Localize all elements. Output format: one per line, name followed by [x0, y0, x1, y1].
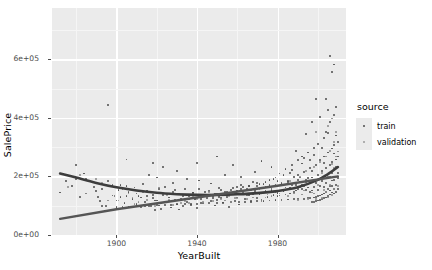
y-tick-mark [48, 176, 51, 177]
x-tick-label: 1940 [177, 239, 217, 248]
y-tick-label: 4e+05 [3, 114, 39, 122]
x-tick-mark [116, 235, 117, 238]
legend-label: validation [377, 138, 416, 147]
y-tick-mark [48, 235, 51, 236]
x-tick-mark [197, 235, 198, 238]
x-tick-label: 1900 [96, 239, 136, 248]
plot-panel [52, 8, 346, 235]
y-tick-label: 6e+05 [3, 55, 39, 63]
trend-line-train [60, 167, 338, 195]
legend: source trainvalidation [356, 101, 430, 150]
legend-entries: trainvalidation [356, 118, 430, 150]
legend-key-point-marker-icon [356, 118, 372, 134]
legend-title: source [357, 101, 430, 112]
y-tick-mark [48, 59, 51, 60]
legend-entry-train[interactable]: train [356, 118, 430, 134]
y-tick-mark [48, 118, 51, 119]
point-marker-icon [363, 125, 365, 127]
y-axis-ticks: 0e+002e+054e+056e+05 [0, 0, 48, 270]
legend-key-point-marker-icon [356, 134, 372, 150]
point-marker-icon [363, 141, 365, 143]
trend-lines-layer [52, 8, 346, 235]
legend-entry-validation[interactable]: validation [356, 134, 430, 150]
scatter-plot-figure: SalePrice 0e+002e+054e+056e+05 190019401… [0, 0, 432, 270]
x-tick-label: 1980 [258, 239, 298, 248]
x-axis-title: YearBuilt [52, 250, 346, 261]
legend-label: train [377, 122, 396, 131]
x-tick-mark [278, 235, 279, 238]
y-tick-label: 0e+00 [3, 231, 39, 239]
trend-line-validation [60, 176, 338, 219]
y-tick-label: 2e+05 [3, 172, 39, 180]
